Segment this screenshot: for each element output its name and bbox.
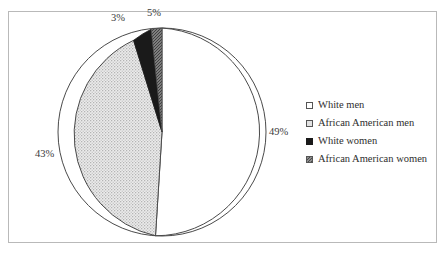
pie-slice-white-men <box>156 28 260 236</box>
data-label-white-women: 3% <box>111 12 125 23</box>
data-label-white-men: 49% <box>269 126 288 137</box>
legend-label-white-men: White men <box>318 99 364 111</box>
legend-item-african-american-women: African American women <box>306 150 440 168</box>
data-label-african-american-men: 43% <box>35 148 54 159</box>
legend-swatch-white-women-icon <box>306 138 313 145</box>
legend-label-african-american-women: African American women <box>318 153 427 165</box>
legend-label-african-american-men: African American men <box>318 117 414 129</box>
legend-item-white-women: White women <box>306 132 440 150</box>
legend-swatch-white-men-icon <box>306 102 313 109</box>
chart-legend: White men African American men White wom… <box>306 96 440 168</box>
legend-item-african-american-men: African American men <box>306 114 440 132</box>
data-label-african-american-women: 5% <box>147 7 161 18</box>
pie-chart-figure: 49% 43% 3% 5% White men African American… <box>0 0 446 259</box>
legend-swatch-african-american-men-icon <box>306 120 313 127</box>
legend-label-white-women: White women <box>318 135 377 147</box>
legend-swatch-african-american-women-icon <box>306 156 313 163</box>
legend-item-white-men: White men <box>306 96 440 114</box>
